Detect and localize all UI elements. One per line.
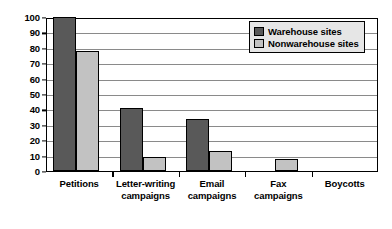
- y-axis-tick-label: 20: [6, 136, 40, 146]
- y-axis-tick-label: 30: [6, 121, 40, 131]
- y-axis-tick-label: 100: [6, 13, 40, 23]
- x-axis-tick: [312, 172, 313, 177]
- bar: [53, 17, 76, 171]
- y-axis-tick-label: 80: [6, 44, 40, 54]
- x-axis-tick: [245, 172, 246, 177]
- legend-swatch-icon: [254, 39, 264, 48]
- category-label-line: campaigns: [237, 190, 319, 202]
- bar-chart: 0102030405060708090100 PetitionsLetter-w…: [0, 0, 392, 229]
- x-axis-tick: [179, 172, 180, 177]
- gridline: [47, 18, 377, 19]
- legend-item-label: Nonwarehouse sites: [268, 38, 359, 49]
- legend-item: Warehouse sites: [254, 25, 359, 37]
- y-axis-tick-label: 50: [6, 90, 40, 100]
- legend-swatch-icon: [254, 27, 264, 36]
- y-axis-tick-label: 10: [6, 152, 40, 162]
- x-axis-tick: [112, 172, 113, 177]
- bar: [209, 151, 232, 171]
- legend-item-label: Warehouse sites: [268, 26, 342, 37]
- y-axis-tick-label: 40: [6, 106, 40, 116]
- chart-legend: Warehouse sitesNonwarehouse sites: [249, 21, 365, 53]
- category-label-line: Boycotts: [304, 178, 386, 190]
- y-axis-tick-label: 70: [6, 59, 40, 69]
- legend-item: Nonwarehouse sites: [254, 37, 359, 49]
- x-axis-category-label: Boycotts: [304, 178, 386, 190]
- y-axis-tick-label: 60: [6, 75, 40, 85]
- y-axis-tick-label: 90: [6, 29, 40, 39]
- bar: [76, 51, 99, 171]
- bar: [143, 157, 166, 171]
- bar: [275, 159, 298, 171]
- bar: [186, 119, 209, 171]
- bar: [120, 108, 143, 171]
- y-axis-tick-label: 0: [6, 167, 40, 177]
